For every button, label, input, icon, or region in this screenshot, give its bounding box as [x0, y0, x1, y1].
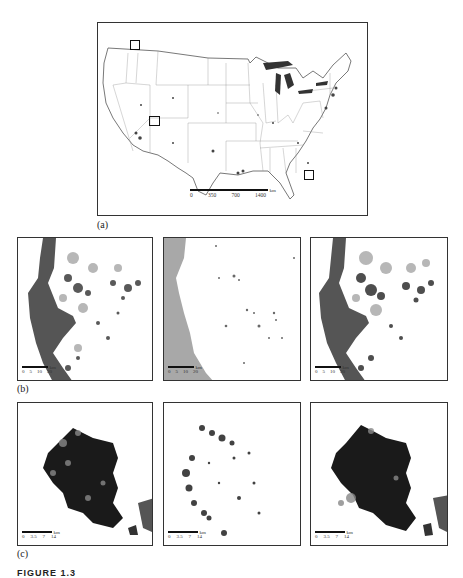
panel-c-left: km 03.5714: [17, 402, 153, 546]
southeast-inset-box: [304, 170, 314, 180]
panel-a-label: (a): [97, 219, 108, 230]
panel-c-right: km 03.5714: [310, 402, 448, 546]
panel-b-middle-scalebar: km 051020: [168, 366, 202, 374]
panel-c-label: (c): [17, 548, 28, 559]
us-map: [98, 23, 368, 216]
southwest-inset-box: [149, 116, 160, 126]
panel-b-left: km 051020: [17, 237, 153, 381]
panel-b-middle: km 051020: [163, 237, 301, 381]
us-map-scalebar: km 0 350 700 1400: [190, 189, 276, 198]
panel-c-left-scalebar: km 03.5714: [22, 531, 60, 539]
panel-c-middle: km 03.5714: [163, 402, 301, 546]
panel-c-middle-scalebar: km 03.5714: [168, 531, 206, 539]
panel-b-right: km 051020: [310, 237, 448, 381]
panel-c-right-scalebar: km 03.5714: [315, 531, 353, 539]
us-map-frame: km 0 350 700 1400: [97, 22, 368, 216]
northwest-inset-box: [130, 40, 140, 50]
panel-b-left-scalebar: km 051020: [22, 366, 56, 374]
panel-b-label: (b): [17, 383, 29, 394]
figure-caption: FIGURE 1.3: [17, 568, 76, 578]
panel-b-right-scalebar: km 051020: [315, 366, 349, 374]
